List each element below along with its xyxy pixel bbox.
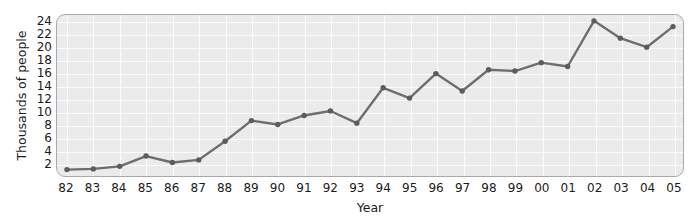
y-tick-label: 22	[22, 27, 52, 41]
data-point-marker	[618, 36, 623, 41]
data-point-marker	[249, 118, 254, 123]
y-tick-label: 16	[22, 66, 52, 80]
data-point-marker	[91, 166, 96, 171]
data-point-marker	[196, 157, 201, 162]
x-tick-label: 05	[659, 180, 689, 196]
y-tick-label: 20	[22, 40, 52, 54]
y-tick-label: 18	[22, 53, 52, 67]
data-point-marker	[644, 45, 649, 50]
y-tick-label: 24	[22, 14, 52, 28]
data-point-marker	[380, 85, 385, 90]
data-point-marker	[64, 167, 69, 172]
y-tick-label: 2	[22, 157, 52, 171]
data-point-marker	[222, 139, 227, 144]
line-chart: Thousands of people 24222018161412108642…	[0, 0, 699, 223]
y-tick-label: 8	[22, 118, 52, 132]
y-tick-label: 10	[22, 105, 52, 119]
data-point-marker	[275, 122, 280, 127]
y-tick-label: 14	[22, 79, 52, 93]
data-point-marker	[539, 60, 544, 65]
x-axis-title: Year	[340, 200, 400, 215]
data-point-marker	[407, 95, 412, 100]
data-line	[67, 21, 673, 170]
x-axis-tick-labels: 8283848586878889909192939495969798990001…	[56, 180, 684, 196]
data-point-marker	[301, 113, 306, 118]
data-point-marker	[512, 68, 517, 73]
y-axis-tick-labels: 24222018161412108642	[22, 14, 52, 177]
data-point-marker	[170, 160, 175, 165]
data-point-marker	[670, 24, 675, 29]
data-point-marker	[143, 153, 148, 158]
series-line	[57, 15, 683, 176]
y-tick-label: 6	[22, 131, 52, 145]
data-point-marker	[460, 88, 465, 93]
data-point-marker	[328, 108, 333, 113]
y-tick-label: 4	[22, 144, 52, 158]
data-point-marker	[433, 71, 438, 76]
data-point-marker	[354, 121, 359, 126]
data-point-marker	[117, 164, 122, 169]
plot-area	[56, 14, 684, 177]
data-point-marker	[486, 67, 491, 72]
data-point-marker	[591, 18, 596, 23]
y-tick-label: 12	[22, 92, 52, 106]
data-point-marker	[565, 64, 570, 69]
